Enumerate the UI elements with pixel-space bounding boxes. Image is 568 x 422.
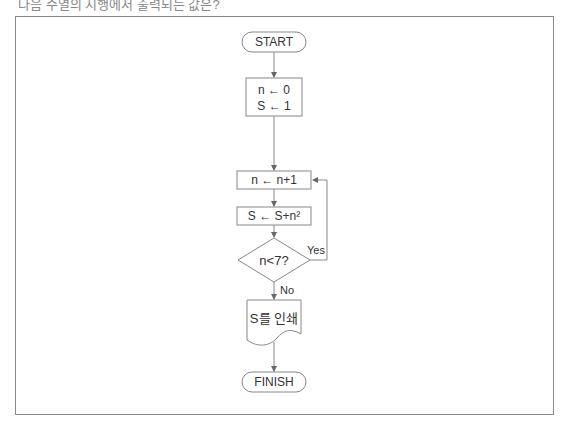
increment-label: n ← n+1 <box>237 174 311 186</box>
start-label: START <box>242 36 306 48</box>
init-label-s: S ← 1 <box>246 100 302 112</box>
finish-label: FINISH <box>242 376 306 388</box>
condition-label: n<7? <box>238 254 310 267</box>
output-label: S를 인쇄 <box>247 312 301 325</box>
init-label-n: n ← 0 <box>246 84 302 96</box>
no-label: No <box>280 285 294 296</box>
yes-label: Yes <box>307 245 325 256</box>
accumulate-label: S ← S+n² <box>237 210 311 222</box>
